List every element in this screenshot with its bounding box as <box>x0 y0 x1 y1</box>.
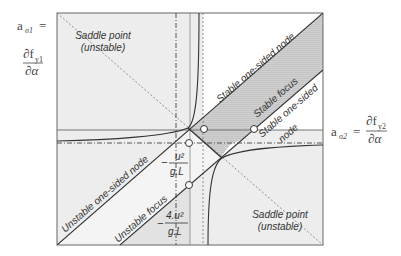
y-axis-numerator: ∂f <box>23 46 34 61</box>
x-axis-denominator: ∂α <box>368 131 382 146</box>
x-axis-symbol: a <box>331 124 337 139</box>
marker-circle <box>186 182 193 189</box>
saddle-bottom-right-line1: Saddle point <box>252 209 309 220</box>
saddle-bottom-right-line2: (unstable) <box>258 221 302 232</box>
x-axis-label: a σ2 = ∂f y2 ∂α <box>331 113 387 146</box>
x-axis-subscript: σ2 <box>339 132 347 141</box>
marker1-denominator: g.L <box>170 166 184 177</box>
marker2-numerator: 4.u² <box>166 210 184 221</box>
x-axis-numerator-sub: y2 <box>378 122 386 131</box>
y-axis-subscript: σ1 <box>25 26 33 35</box>
x-axis-numerator: ∂f <box>366 113 377 128</box>
marker-circle <box>186 140 193 147</box>
marker2-minus: − <box>157 217 164 229</box>
marker1-numerator: u² <box>175 151 185 162</box>
marker-circle <box>201 126 208 133</box>
y-axis-denominator: ∂α <box>25 63 39 78</box>
y-axis-symbol: a <box>17 18 23 33</box>
marker1-minus: − <box>161 156 168 168</box>
y-axis-equals: = <box>39 18 46 33</box>
saddle-top-left-line2: (unstable) <box>81 42 125 53</box>
saddle-top-left-line1: Saddle point <box>75 30 132 41</box>
stability-diagram: Saddle point (unstable) Saddle point (un… <box>0 0 401 256</box>
y-axis-label: a σ1 = ∂f y1 ∂α <box>17 18 46 78</box>
marker2-denominator: g.L <box>168 226 182 237</box>
x-axis-equals: = <box>353 124 360 139</box>
